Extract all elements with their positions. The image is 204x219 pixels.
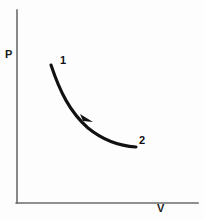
pv-diagram-figure: P V 1 2 (0, 0, 204, 219)
diagram-canvas (0, 0, 204, 219)
state-2-label: 2 (139, 135, 145, 146)
volume-axis-label: V (157, 203, 164, 214)
state-1-label: 1 (60, 55, 66, 66)
pressure-axis-label: P (5, 49, 12, 60)
process-curve (51, 65, 136, 147)
